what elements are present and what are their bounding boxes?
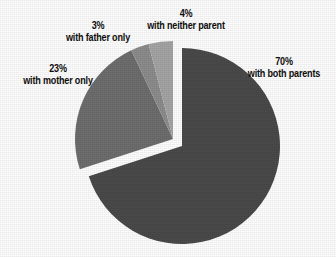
pie-chart: 70% with both parents 23% with mother on… bbox=[0, 0, 336, 257]
callout-neither-parent: 4% with neither parent bbox=[136, 7, 236, 32]
callout-mother-only-description: with mother only bbox=[10, 74, 106, 86]
callout-mother-only-percent: 23% bbox=[10, 62, 106, 74]
callout-neither-parent-percent: 4% bbox=[136, 7, 236, 19]
callout-both-parents: 70% with both parents bbox=[239, 55, 328, 80]
callout-both-parents-percent: 70% bbox=[239, 55, 328, 67]
callout-both-parents-description: with both parents bbox=[239, 67, 328, 79]
pie-chart-graphic bbox=[0, 0, 336, 257]
callout-mother-only: 23% with mother only bbox=[10, 62, 106, 87]
callout-father-only: 3% with father only bbox=[53, 19, 142, 44]
callout-father-only-percent: 3% bbox=[53, 19, 142, 31]
callout-father-only-description: with father only bbox=[53, 31, 142, 43]
callout-neither-parent-description: with neither parent bbox=[136, 19, 236, 31]
